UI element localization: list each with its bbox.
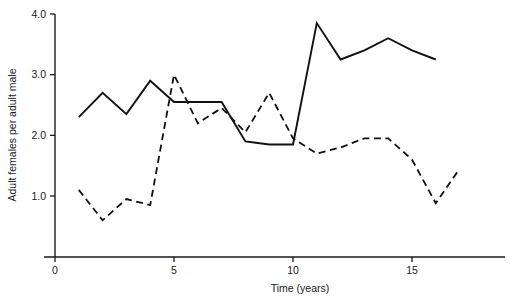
y-tick-label: 3.0: [31, 68, 46, 80]
x-tick-label: 0: [52, 264, 58, 276]
x-tick-label: 15: [406, 264, 418, 276]
y-tick-label: 4.0: [31, 8, 46, 20]
y-axis-title: Adult females per adult male: [6, 68, 18, 201]
axes: [44, 14, 505, 257]
chart-figure: 1.02.03.04.0 051015 Time (years) Adult f…: [0, 0, 531, 307]
data-series-group: [79, 23, 460, 220]
series-line-dashed-series: [79, 75, 460, 221]
x-tick-label: 5: [171, 264, 177, 276]
series-line-solid-series: [79, 23, 436, 144]
x-tick-label: 10: [287, 264, 299, 276]
y-axis-ticks: 1.02.03.04.0: [31, 8, 55, 202]
line-chart: 1.02.03.04.0 051015 Time (years) Adult f…: [0, 0, 531, 307]
x-axis-ticks: 051015: [52, 257, 418, 276]
y-tick-label: 2.0: [31, 129, 46, 141]
y-tick-label: 1.0: [31, 190, 46, 202]
x-axis-title: Time (years): [271, 282, 330, 294]
